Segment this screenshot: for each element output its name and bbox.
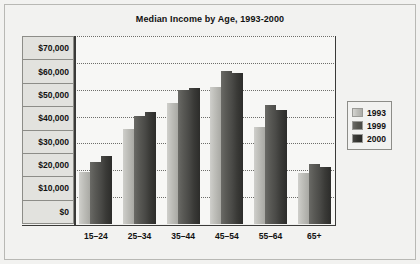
legend-item: 2000	[352, 132, 386, 145]
plot-right-edge-line	[335, 36, 336, 226]
bar	[79, 172, 90, 224]
bar	[265, 105, 276, 224]
bar	[178, 90, 189, 224]
bar	[90, 162, 101, 224]
y-axis-line	[74, 36, 76, 226]
x-tick-label: 45–54	[205, 231, 249, 241]
x-tick-label: 25–34	[118, 231, 162, 241]
bar-groups	[74, 36, 336, 224]
plot-area	[74, 36, 336, 224]
legend-swatch-icon	[352, 108, 363, 117]
bar	[298, 173, 309, 224]
bar-group	[74, 36, 118, 224]
x-axis-line	[22, 225, 336, 226]
bar	[145, 112, 156, 224]
bar-group	[161, 36, 205, 224]
chart-figure: Median Income by Age, 1993-2000 $70,000$…	[0, 0, 420, 264]
y-tick-label: $40,000	[22, 106, 74, 129]
bar	[221, 71, 232, 224]
bar-group	[292, 36, 336, 224]
x-tick-label: 55–64	[249, 231, 293, 241]
y-tick-label: $30,000	[22, 130, 74, 153]
y-tick-label: $70,000	[22, 36, 74, 59]
bar	[167, 103, 178, 224]
bar	[276, 110, 287, 224]
bar	[101, 156, 112, 224]
y-axis-tick-labels: $70,000$60,000$50,000$40,000$30,000$20,0…	[22, 36, 74, 224]
legend-label: 1993	[367, 108, 386, 118]
bar	[123, 129, 134, 224]
bar	[309, 164, 320, 224]
y-tick-label: $10,000	[22, 176, 74, 199]
legend-swatch-icon	[352, 121, 363, 130]
chart-title: Median Income by Age, 1993-2000	[0, 14, 420, 24]
y-tick-label: $50,000	[22, 83, 74, 106]
y-tick-label: $0	[22, 200, 74, 224]
y-tick-label: $60,000	[22, 59, 74, 82]
legend-label: 2000	[367, 134, 386, 144]
bar-group	[205, 36, 249, 224]
x-tick-label: 35–44	[161, 231, 205, 241]
x-tick-label: 15–24	[74, 231, 118, 241]
y-tick-label: $20,000	[22, 153, 74, 176]
legend-item: 1993	[352, 106, 386, 119]
bar-group	[249, 36, 293, 224]
bar-group	[118, 36, 162, 224]
x-axis-tick-labels: 15–2425–3435–4445–5455–6465+	[74, 231, 336, 247]
chart-legend: 199319992000	[347, 101, 392, 150]
bar	[189, 88, 200, 224]
legend-label: 1999	[367, 121, 386, 131]
bar	[232, 73, 243, 224]
x-tick-label: 65+	[292, 231, 336, 241]
legend-swatch-icon	[352, 134, 363, 143]
bar	[134, 116, 145, 224]
bar	[254, 127, 265, 224]
bar	[320, 167, 331, 224]
legend-item: 1999	[352, 119, 386, 132]
bar	[210, 87, 221, 224]
